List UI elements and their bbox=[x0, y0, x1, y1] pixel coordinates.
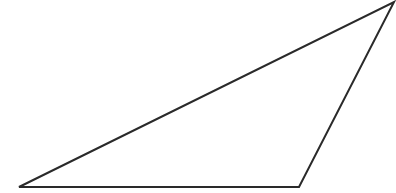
diagram-canvas bbox=[0, 0, 396, 193]
triangle-shape bbox=[19, 2, 394, 187]
